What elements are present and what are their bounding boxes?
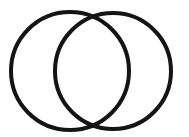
two-circles-svg [0, 0, 189, 137]
background-rect [0, 0, 189, 137]
figure-canvas [0, 0, 189, 137]
